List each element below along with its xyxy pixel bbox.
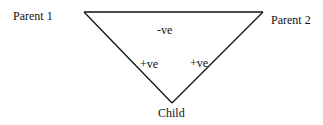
edge-parent1-child-label: +ve xyxy=(140,57,158,71)
node-parent2-label: Parent 2 xyxy=(271,13,311,27)
edge-parent1-parent2-label: -ve xyxy=(157,23,172,37)
node-parent1-label: Parent 1 xyxy=(13,9,53,23)
edge-parent2-child-label: +ve xyxy=(190,56,208,70)
edge-parent2-child xyxy=(172,12,263,103)
node-child-label: Child xyxy=(158,106,185,120)
